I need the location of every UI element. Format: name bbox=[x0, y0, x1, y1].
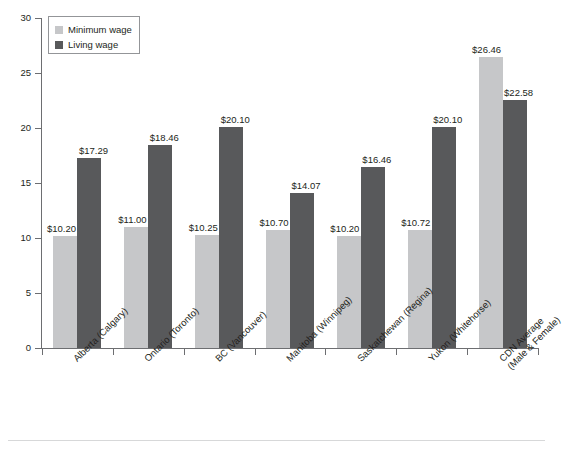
bar-value-label: $10.20 bbox=[330, 224, 359, 234]
legend-item-minimum-wage: Minimum wage bbox=[55, 22, 139, 37]
x-axis-tick bbox=[396, 349, 397, 355]
bar-living-wage bbox=[219, 127, 243, 348]
bar-value-label: $14.07 bbox=[292, 181, 321, 191]
x-axis-tick bbox=[538, 349, 539, 355]
y-axis-tick bbox=[35, 73, 42, 74]
bar-living-wage bbox=[290, 193, 314, 348]
legend-swatch-minimum-wage bbox=[55, 26, 63, 34]
legend-swatch-living-wage bbox=[55, 41, 63, 49]
x-axis-tick bbox=[113, 349, 114, 355]
bar-value-label: $26.46 bbox=[472, 45, 501, 55]
bar-living-wage bbox=[77, 158, 101, 348]
x-axis-tick bbox=[42, 349, 43, 355]
chart-legend: Minimum wage Living wage bbox=[48, 16, 140, 54]
bar-value-label: $16.46 bbox=[362, 155, 391, 165]
footer-divider bbox=[8, 440, 545, 441]
bar-value-label: $10.70 bbox=[260, 218, 289, 228]
bar-value-label: $22.58 bbox=[504, 88, 533, 98]
bar-value-label: $18.46 bbox=[150, 133, 179, 143]
bar-value-label: $17.29 bbox=[79, 146, 108, 156]
bar-value-label: $11.00 bbox=[118, 215, 146, 225]
bar-value-label: $10.20 bbox=[47, 224, 76, 234]
x-axis-tick bbox=[467, 349, 468, 355]
y-axis-tick-label: 5 bbox=[0, 288, 31, 297]
bar-minimum-wage bbox=[124, 227, 148, 348]
y-axis-tick-label: 15 bbox=[0, 178, 31, 187]
y-axis-tick bbox=[35, 348, 42, 349]
y-axis-tick-label: 25 bbox=[0, 68, 31, 77]
x-axis-tick bbox=[255, 349, 256, 355]
plot-area bbox=[42, 18, 538, 348]
bar-minimum-wage bbox=[195, 235, 219, 348]
bar-minimum-wage bbox=[53, 236, 77, 348]
bar-living-wage bbox=[148, 145, 172, 348]
legend-label-living-wage: Living wage bbox=[68, 40, 118, 50]
y-axis-tick bbox=[35, 128, 42, 129]
y-axis-tick bbox=[35, 293, 42, 294]
bar-living-wage bbox=[432, 127, 456, 348]
bar-value-label: $20.10 bbox=[221, 115, 250, 125]
legend-label-minimum-wage: Minimum wage bbox=[68, 25, 132, 35]
bar-value-label: $10.72 bbox=[401, 218, 430, 228]
y-axis-tick bbox=[35, 238, 42, 239]
y-axis-tick bbox=[35, 18, 42, 19]
y-axis-tick-label: 20 bbox=[0, 123, 31, 132]
bar-minimum-wage bbox=[337, 236, 361, 348]
x-axis-tick bbox=[184, 349, 185, 355]
legend-item-living-wage: Living wage bbox=[55, 37, 139, 52]
bar-living-wage bbox=[503, 100, 527, 348]
bar-value-label: $10.25 bbox=[189, 223, 218, 233]
bar-minimum-wage bbox=[266, 230, 290, 348]
bar-value-label: $20.10 bbox=[433, 115, 462, 125]
bar-living-wage bbox=[361, 167, 385, 348]
y-axis-tick-label: 30 bbox=[0, 13, 31, 22]
y-axis-tick-label: 10 bbox=[0, 233, 31, 242]
y-axis-tick-label: 0 bbox=[0, 343, 31, 352]
x-axis-tick bbox=[325, 349, 326, 355]
y-axis-tick bbox=[35, 183, 42, 184]
